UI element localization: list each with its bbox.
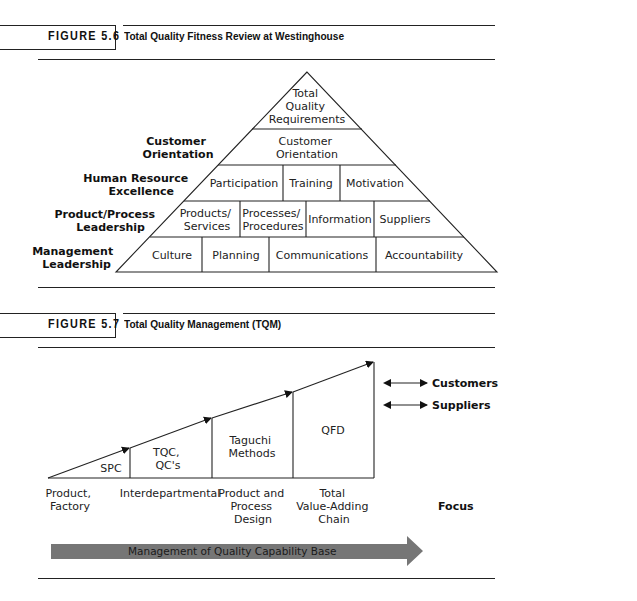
figure-5-7-bottom-rule [38, 578, 495, 579]
focus-product-factory: Product, Factory [46, 487, 95, 513]
link-customers: Customers [432, 377, 499, 390]
focus-label: Focus [438, 500, 474, 513]
focus-total-value-adding-chain: Total Value-Adding Chain [296, 487, 372, 526]
stage-label-tqc: TQC, QC's [152, 446, 183, 472]
tqm-diagram: SPC TQC, QC's Taguchi Methods QFD Custom… [0, 0, 637, 601]
link-suppliers: Suppliers [432, 399, 491, 412]
stage-label-taguchi: Taguchi Methods [228, 434, 275, 460]
focus-product-process-design: Product and Process Design [218, 487, 287, 526]
focus-interdepartmental: Interdepartmental [120, 487, 221, 500]
stage-label-spc: SPC [100, 462, 122, 475]
stage-label-qfd: QFD [321, 424, 344, 437]
capability-base-label: Management of Quality Capability Base [128, 545, 336, 557]
